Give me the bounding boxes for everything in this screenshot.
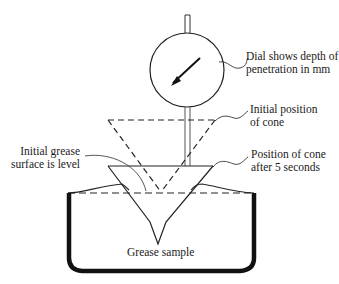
cone-initial-position [108,120,215,192]
dial-label: Dial shows depth of penetration in mm [246,50,338,75]
dial-label-line1: Dial shows depth of [246,50,338,63]
initial-leader-line [215,111,248,121]
grease-surface-displaced [68,184,129,193]
grease-sample-label: Grease sample [127,246,194,259]
grease-container [69,193,254,271]
after-position-label: Position of cone after 5 seconds [251,148,326,173]
surface-label: Initial grease surface is level [10,145,80,170]
plunger-rod [185,107,190,166]
after-leader-line [213,157,248,167]
after-label-line1: Position of cone [251,148,326,161]
after-label-line2: after 5 seconds [251,161,326,174]
initial-position-label: Initial position of cone [250,103,317,128]
surface-leader-line [85,155,146,191]
surface-label-line1: Initial grease [10,145,80,158]
penetrometer-diagram [0,0,339,284]
grease-surface-displaced-right [191,184,254,193]
dial-label-line2: penetration in mm [246,63,338,76]
dial-stem-top [185,15,190,33]
initial-label-line1: Initial position [250,103,317,116]
surface-label-line2: surface is level [10,158,80,171]
initial-label-line2: of cone [250,116,317,129]
cone-final-position [108,166,213,244]
